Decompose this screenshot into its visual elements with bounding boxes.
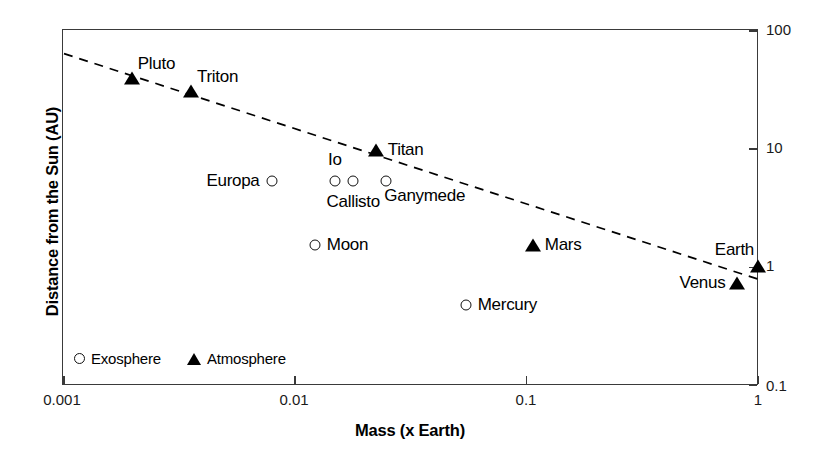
legend-label-exosphere: Exosphere — [91, 350, 161, 367]
x-tick-label-2: 0.1 — [516, 391, 537, 408]
x-tick-label-3: 1 — [754, 391, 762, 408]
data-label-earth: Earth — [715, 240, 754, 260]
x-tick-0 — [63, 376, 65, 384]
x-tick-2 — [526, 376, 528, 384]
x-tick-3 — [757, 376, 759, 384]
y-tick-3 — [749, 384, 757, 386]
data-label-io: Io — [328, 150, 342, 170]
y-tick-label-3: 100 — [766, 21, 791, 38]
chart-legend: Exosphere Atmosphere — [74, 350, 286, 367]
scatter-chart-figure: Distance from the Sun (AU) Mass (x Earth… — [0, 0, 832, 455]
plot-area — [62, 29, 758, 385]
data-label-pluto: Pluto — [138, 54, 175, 74]
data-point-ganymede[interactable] — [381, 176, 392, 187]
data-label-titan: Titan — [388, 140, 424, 160]
x-axis-title: Mass (x Earth) — [62, 421, 758, 440]
y-tick-1 — [749, 148, 757, 150]
data-label-venus: Venus — [680, 273, 726, 293]
x-tick-label-0: 0.001 — [43, 391, 81, 408]
x-tick-1 — [294, 376, 296, 384]
data-point-earth[interactable] — [750, 260, 766, 273]
x-tick-label-1: 0.01 — [279, 391, 308, 408]
y-tick-label-0: 0.1 — [766, 377, 787, 394]
data-point-callisto[interactable] — [348, 176, 359, 187]
y-tick-label-1: 1 — [766, 257, 774, 274]
data-point-titan[interactable] — [368, 144, 384, 157]
data-point-io[interactable] — [329, 176, 340, 187]
data-label-ganymede: Ganymede — [384, 186, 465, 206]
filled-triangle-icon — [187, 353, 201, 365]
legend-label-atmosphere: Atmosphere — [207, 350, 286, 367]
data-point-mercury[interactable] — [460, 300, 471, 311]
legend-item-exosphere: Exosphere — [74, 350, 161, 367]
data-label-mars: Mars — [545, 235, 582, 255]
data-point-europa[interactable] — [266, 176, 277, 187]
data-label-mercury: Mercury — [478, 295, 537, 315]
data-label-callisto: Callisto — [327, 192, 380, 212]
data-label-moon: Moon — [327, 235, 368, 255]
data-point-venus[interactable] — [729, 277, 745, 290]
data-label-europa: Europa — [206, 171, 259, 191]
data-point-moon[interactable] — [309, 240, 320, 251]
y-axis-title: Distance from the Sun (AU) — [43, 42, 62, 382]
data-point-mars[interactable] — [525, 238, 541, 251]
y-tick-0 — [749, 30, 757, 32]
data-label-triton: Triton — [197, 67, 238, 87]
open-circle-icon — [74, 353, 85, 364]
legend-item-atmosphere: Atmosphere — [187, 350, 286, 367]
y-tick-label-2: 10 — [766, 139, 783, 156]
